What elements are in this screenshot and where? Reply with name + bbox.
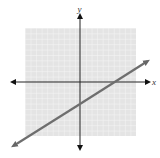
coordinate-graph: x y	[0, 0, 160, 158]
x-axis-label: x	[151, 77, 156, 87]
y-axis-label: y	[77, 4, 82, 14]
